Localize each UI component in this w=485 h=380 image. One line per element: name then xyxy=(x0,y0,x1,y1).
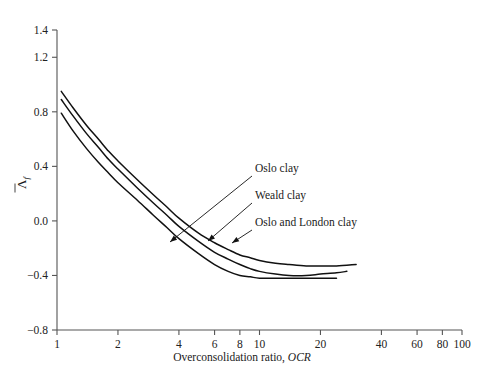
annotation-leader-line xyxy=(208,203,252,241)
y-axis-subscript-glyph: f xyxy=(21,176,31,180)
x-tick-label: 1 xyxy=(54,338,60,350)
y-tick-label: −0.4 xyxy=(27,269,48,281)
annotation-label: Oslo clay xyxy=(255,162,299,175)
x-tick-label: 40 xyxy=(376,338,388,350)
x-tick-label: 8 xyxy=(237,338,243,350)
chart-series-curves: Oslo clayWeald clayOslo and London clay xyxy=(61,91,356,278)
x-tick-label: 10 xyxy=(254,338,266,350)
x-tick-label: 4 xyxy=(176,338,182,350)
x-axis-title: Overconsolidation ratio, OCR xyxy=(173,351,311,364)
y-axis-symbol: Λf xyxy=(14,176,31,189)
chart-tick-marks xyxy=(52,30,462,335)
y-tick-label: 1.4 xyxy=(34,24,49,36)
x-tick-label: 20 xyxy=(315,338,327,350)
annotation-arrow-head xyxy=(232,237,239,243)
y-tick-label: 0.4 xyxy=(34,160,49,172)
series-curve: Weald clay xyxy=(61,100,347,276)
y-tick-label: 0.0 xyxy=(34,215,49,227)
annotation-leader-line xyxy=(170,176,252,242)
y-axis-title: Λf xyxy=(14,176,31,193)
x-axis-tick-labels: 124681020406080100 xyxy=(54,338,471,350)
y-tick-label: 1.2 xyxy=(34,51,49,63)
annotation-label: Oslo and London clay xyxy=(255,216,357,229)
x-tick-label: 2 xyxy=(115,338,121,350)
x-tick-label: 80 xyxy=(437,338,449,350)
chart-axes xyxy=(57,30,462,330)
annotation-labels: Oslo clayWeald clayOslo and London clay xyxy=(255,162,357,229)
x-axis-title-plain: Overconsolidation ratio, xyxy=(173,351,288,364)
x-tick-label: 60 xyxy=(411,338,423,350)
svg-text:Overconsolidation ratio, OCR: Overconsolidation ratio, OCR xyxy=(173,351,311,364)
y-tick-label: 0.8 xyxy=(34,106,49,118)
annotation-label: Weald clay xyxy=(255,189,306,202)
annotation-leader-lines xyxy=(170,176,252,243)
y-tick-label: −0.8 xyxy=(27,324,48,336)
chart-canvas: 124681020406080100 −0.8−0.40.00.40.81.21… xyxy=(0,0,485,380)
x-tick-label: 6 xyxy=(212,338,218,350)
x-tick-label: 100 xyxy=(453,338,471,350)
chart-figure: 124681020406080100 −0.8−0.40.00.40.81.21… xyxy=(0,0,485,380)
x-axis-title-italic: OCR xyxy=(288,351,311,363)
